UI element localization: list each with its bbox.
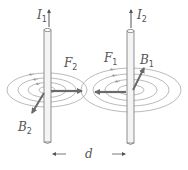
label-distance: d xyxy=(85,147,93,161)
label-force-1: F1 xyxy=(103,51,117,67)
wire-2 xyxy=(127,29,134,144)
field-vector-b2 xyxy=(32,93,44,113)
wire-1 xyxy=(44,28,51,143)
label-field-2: B2 xyxy=(17,120,32,136)
parallel-wires-diagram: I1 I2 F2 F1 B1 B2 d xyxy=(0,0,188,170)
label-field-1: B1 xyxy=(139,53,154,69)
label-force-2: F2 xyxy=(63,56,77,72)
label-current-1: I1 xyxy=(36,8,47,24)
field-vector-b1 xyxy=(133,68,144,90)
diagram-canvas: I1 I2 F2 F1 B1 B2 d xyxy=(0,0,188,170)
label-current-2: I2 xyxy=(136,8,147,24)
